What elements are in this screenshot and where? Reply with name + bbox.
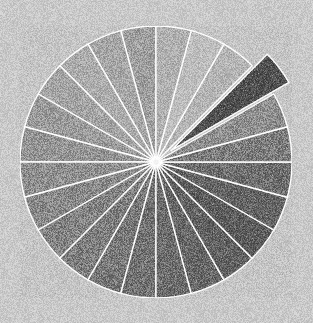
pie-chart-svg bbox=[0, 0, 313, 323]
pie-center-hub bbox=[153, 159, 158, 164]
pie-chart-figure bbox=[0, 0, 313, 323]
